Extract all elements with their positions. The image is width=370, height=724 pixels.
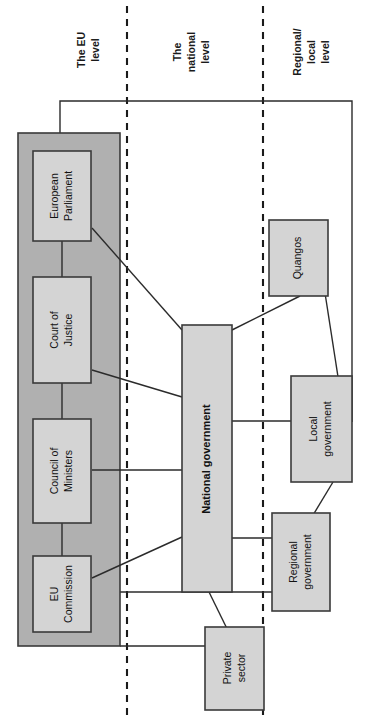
column-label-national-level-line-2: national — [185, 32, 197, 72]
column-label-eu-level-line-1: The EU — [75, 32, 87, 68]
node-regional-government-line-2: government — [301, 534, 313, 590]
node-european-parliament-line-1: European — [48, 173, 60, 219]
node-local-government-line-2: government — [321, 401, 333, 457]
node-eu-commission-line-1: EU — [48, 587, 60, 602]
node-national-government-label: National government — [200, 404, 212, 514]
node-court-of-justice-line-1: Court of — [48, 311, 60, 348]
node-private-sector-line-2: sector — [235, 653, 247, 682]
column-label-national-level-line-3: level — [199, 40, 211, 63]
column-label-regional-local-level-line-1: Regional/ — [291, 28, 303, 75]
diagram-canvas: The EU level The national level Regional… — [0, 0, 370, 724]
node-quangos-label: Quangos — [291, 237, 303, 280]
node-local-government-line-1: Local — [307, 416, 319, 441]
column-label-eu-level: The EU level — [75, 32, 101, 68]
node-private-sector-line-1: Private — [221, 652, 233, 685]
column-label-national-level-line-1: The — [171, 43, 183, 62]
connector-national-government-to-quangos — [232, 296, 300, 330]
node-regional-government-line-1: Regional — [287, 541, 299, 582]
node-court-of-justice-line-2: Justice — [62, 314, 74, 347]
column-label-regional-local-level-line-3: level — [319, 40, 331, 63]
node-european-parliament-line-2: Parliament — [62, 171, 74, 221]
node-eu-commission-line-2: Commission — [62, 565, 74, 623]
column-label-regional-local-level: Regional/ local level — [291, 28, 331, 75]
column-label-regional-local-level-line-2: local — [305, 40, 317, 64]
column-label-eu-level-line-2: level — [89, 38, 101, 61]
node-council-of-ministers-line-1: Council of — [48, 448, 60, 495]
column-label-national-level: The national level — [171, 32, 211, 72]
node-council-of-ministers-line-2: Ministers — [62, 450, 74, 492]
